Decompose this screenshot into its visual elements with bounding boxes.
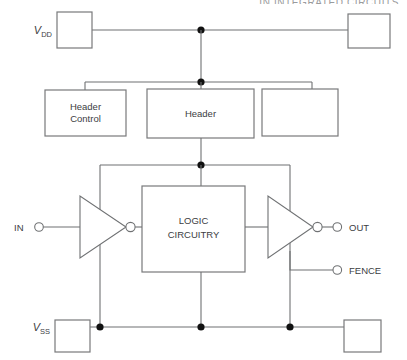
logic-label-line2: CIRCUITRY bbox=[168, 229, 220, 240]
vss-label: VSS bbox=[33, 321, 50, 336]
header-label: Header bbox=[185, 108, 216, 119]
output-inverter-group[interactable] bbox=[245, 196, 333, 258]
fence-wire bbox=[290, 251, 333, 270]
junction-vss-right bbox=[286, 323, 293, 330]
junction-vss-left bbox=[96, 323, 103, 330]
vss-right-box[interactable] bbox=[344, 320, 381, 352]
input-label: IN bbox=[14, 222, 24, 233]
input-terminal[interactable] bbox=[35, 223, 44, 232]
fence-path-group: FENCE bbox=[290, 251, 381, 276]
output-inverter-bubble bbox=[313, 222, 322, 231]
vss-rail-group bbox=[55, 320, 381, 352]
vdd-left-box[interactable] bbox=[57, 12, 92, 48]
input-inverter-bubble bbox=[126, 222, 135, 231]
circuit-diagram: VDD Header Control Header LOGIC CIRCUITR… bbox=[0, 0, 407, 360]
output-terminal-group: OUT bbox=[333, 222, 369, 233]
fence-terminal[interactable] bbox=[333, 266, 342, 275]
vdd-subscript: DD bbox=[41, 30, 52, 39]
header-third-box[interactable] bbox=[262, 89, 338, 136]
vdd-label: VDD bbox=[34, 24, 53, 39]
vss-left-box[interactable] bbox=[55, 320, 90, 352]
logic-label-line1: LOGIC bbox=[179, 215, 209, 226]
input-path-group: IN bbox=[14, 222, 80, 233]
output-label: OUT bbox=[349, 222, 369, 233]
input-inverter-group[interactable] bbox=[80, 196, 142, 258]
fence-label: FENCE bbox=[349, 265, 381, 276]
vss-subscript: SS bbox=[40, 327, 50, 336]
logic-block-group: LOGIC CIRCUITRY bbox=[142, 186, 245, 327]
running-header: IN INTEGRATED CIRCUITS bbox=[259, 0, 399, 4]
vdd-right-box[interactable] bbox=[348, 14, 390, 48]
output-terminal[interactable] bbox=[333, 223, 342, 232]
header-bus-group bbox=[85, 78, 312, 90]
vdd-rail-group bbox=[57, 12, 390, 82]
input-inverter-triangle[interactable] bbox=[80, 196, 126, 258]
header-control-label-line1: Header bbox=[70, 101, 101, 112]
header-row-group: Header Control Header bbox=[45, 89, 338, 138]
header-control-label-line2: Control bbox=[70, 113, 101, 124]
junction-vss-center bbox=[197, 323, 204, 330]
